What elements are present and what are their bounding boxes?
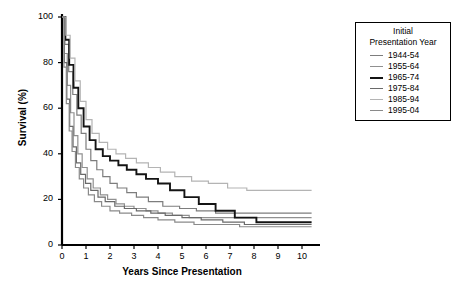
- survival-curve-1955-64: [62, 17, 312, 218]
- x-tick-label: 0: [52, 251, 72, 261]
- legend-line-swatch: [370, 99, 383, 100]
- y-tick-label: 20: [31, 193, 53, 203]
- x-tick-label: 4: [148, 251, 168, 261]
- survival-curve-1995-04: [62, 17, 312, 227]
- y-tick-label: 40: [31, 148, 53, 158]
- x-tick-label: 5: [172, 251, 192, 261]
- legend-line-swatch: [370, 110, 383, 111]
- legend-item-label: 1955-64: [388, 61, 419, 72]
- legend-line-swatch: [370, 88, 383, 89]
- x-tick-label: 1: [76, 251, 96, 261]
- x-tick-label: 9: [268, 251, 288, 261]
- legend-item-1995-04: 1995-04: [358, 105, 448, 116]
- x-tick-label: 7: [220, 251, 240, 261]
- y-tick-label: 60: [31, 102, 53, 112]
- legend-item-label: 1995-04: [388, 105, 419, 116]
- legend-item-1975-84: 1975-84: [358, 83, 448, 94]
- legend: Initial Presentation Year 1944-541955-64…: [355, 22, 451, 121]
- x-tick-label: 6: [196, 251, 216, 261]
- x-tick-label: 3: [124, 251, 144, 261]
- x-axis-label: Years Since Presentation: [62, 266, 302, 277]
- legend-item-label: 1975-84: [388, 83, 419, 94]
- y-tick-label: 0: [31, 239, 53, 249]
- x-tick-label: 2: [100, 251, 120, 261]
- legend-item-1955-64: 1955-64: [358, 61, 448, 72]
- y-tick-label: 80: [31, 57, 53, 67]
- survival-curve-1965-74: [62, 17, 312, 222]
- legend-item-1944-54: 1944-54: [358, 50, 448, 61]
- survival-curve-1975-84: [62, 17, 312, 224]
- legend-item-label: 1944-54: [388, 50, 419, 61]
- legend-line-swatch: [370, 55, 383, 56]
- legend-item-label: 1965-74: [388, 72, 419, 83]
- legend-item-label: 1985-94: [388, 94, 419, 105]
- x-tick-label: 10: [292, 251, 312, 261]
- legend-title-line1: Initial: [358, 26, 448, 37]
- x-tick-label: 8: [244, 251, 264, 261]
- legend-title-line2: Presentation Year: [358, 37, 448, 48]
- legend-item-1965-74: 1965-74: [358, 72, 448, 83]
- y-axis-label: Survival (%): [17, 70, 28, 166]
- survival-chart-figure: Survival (%) Years Since Presentation 01…: [0, 0, 465, 287]
- survival-curve-1985-94: [62, 17, 312, 190]
- y-tick-label: 100: [31, 11, 53, 21]
- legend-line-swatch: [370, 66, 383, 67]
- legend-item-1985-94: 1985-94: [358, 94, 448, 105]
- legend-line-swatch: [370, 77, 383, 79]
- legend-items: 1944-541955-641965-741975-841985-941995-…: [358, 50, 448, 116]
- survival-curve-1944-54: [62, 17, 312, 213]
